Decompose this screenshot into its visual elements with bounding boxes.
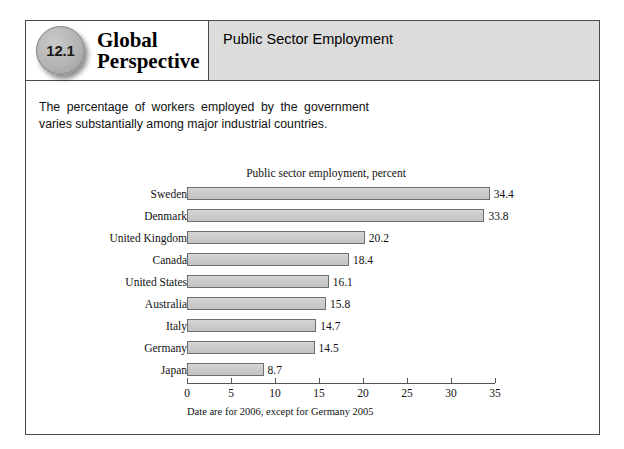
x-axis-tick bbox=[495, 378, 496, 383]
x-axis-tick-label: 5 bbox=[228, 387, 234, 399]
bar bbox=[187, 297, 326, 310]
bar bbox=[187, 319, 316, 332]
bar-category-label: Italy bbox=[47, 320, 187, 332]
x-axis-tick bbox=[363, 378, 364, 383]
bar-value-label: 8.7 bbox=[268, 364, 282, 376]
x-axis-tick-label: 30 bbox=[445, 387, 457, 399]
brand-title: Global Perspective bbox=[97, 30, 200, 72]
header-badge-cell: 12.1 Global Perspective bbox=[26, 21, 209, 80]
bar-category-label: Australia bbox=[47, 298, 187, 310]
exhibit-frame: 12.1 Global Perspective Public Sector Em… bbox=[25, 20, 600, 435]
chart-title: Public sector employment, percent bbox=[156, 167, 496, 179]
bar bbox=[187, 187, 490, 200]
bar-category-label: United States bbox=[47, 276, 187, 288]
x-axis: 05101520253035 bbox=[187, 383, 495, 384]
x-axis-tick-label: 25 bbox=[401, 387, 413, 399]
x-axis-tick bbox=[275, 378, 276, 383]
bar-row: Sweden34.4 bbox=[26, 185, 601, 207]
bar-value-label: 18.4 bbox=[353, 254, 373, 266]
x-axis-tick bbox=[187, 378, 188, 383]
bar-value-label: 20.2 bbox=[369, 232, 389, 244]
bar-value-label: 14.7 bbox=[320, 320, 340, 332]
bar-category-label: United Kingdom bbox=[47, 232, 187, 244]
bar-row: Japan8.7 bbox=[26, 361, 601, 383]
brand-line-1: Global bbox=[97, 30, 200, 51]
exhibit-body: The percentage of workers employed by th… bbox=[26, 81, 599, 435]
bar-row: Denmark33.8 bbox=[26, 207, 601, 229]
bar bbox=[187, 253, 349, 266]
bar-category-label: Germany bbox=[47, 342, 187, 354]
bar-row: Italy14.7 bbox=[26, 317, 601, 339]
bar-row: United Kingdom20.2 bbox=[26, 229, 601, 251]
bar-row: Germany14.5 bbox=[26, 339, 601, 361]
x-axis-tick-label: 0 bbox=[184, 387, 190, 399]
bar bbox=[187, 231, 365, 244]
bar-value-label: 14.5 bbox=[319, 342, 339, 354]
x-axis-tick bbox=[451, 378, 452, 383]
x-axis-tick bbox=[319, 378, 320, 383]
x-axis-tick-label: 20 bbox=[357, 387, 369, 399]
exhibit-number-badge: 12.1 bbox=[36, 26, 85, 75]
chart-plot-area: Sweden34.4Denmark33.8United Kingdom20.2C… bbox=[26, 185, 601, 383]
bar-category-label: Japan bbox=[47, 364, 187, 376]
bar-value-label: 15.8 bbox=[330, 298, 350, 310]
page-title: Public Sector Employment bbox=[223, 31, 393, 47]
bar-row: Canada18.4 bbox=[26, 251, 601, 273]
bar-value-label: 34.4 bbox=[494, 188, 514, 200]
exhibit-number: 12.1 bbox=[46, 42, 74, 59]
x-axis-tick bbox=[407, 378, 408, 383]
x-axis-tick-label: 10 bbox=[269, 387, 281, 399]
bar bbox=[187, 209, 484, 222]
bar-value-label: 16.1 bbox=[333, 276, 353, 288]
bar bbox=[187, 341, 315, 354]
bar-category-label: Sweden bbox=[47, 188, 187, 200]
exhibit-header: 12.1 Global Perspective Public Sector Em… bbox=[26, 21, 599, 81]
x-axis-tick-label: 15 bbox=[313, 387, 325, 399]
bar-value-label: 33.8 bbox=[488, 210, 508, 222]
bar bbox=[187, 275, 329, 288]
bar-row: United States16.1 bbox=[26, 273, 601, 295]
chart-footnote: Date are for 2006, except for Germany 20… bbox=[187, 406, 374, 417]
header-title-cell: Public Sector Employment bbox=[209, 21, 599, 80]
bar-category-label: Denmark bbox=[47, 210, 187, 222]
bar-chart: Public sector employment, percent Sweden… bbox=[26, 81, 601, 435]
x-axis-tick bbox=[231, 378, 232, 383]
bar-category-label: Canada bbox=[47, 254, 187, 266]
bar bbox=[187, 363, 264, 376]
bar-row: Australia15.8 bbox=[26, 295, 601, 317]
x-axis-tick-label: 35 bbox=[489, 387, 501, 399]
brand-line-2: Perspective bbox=[97, 51, 200, 72]
